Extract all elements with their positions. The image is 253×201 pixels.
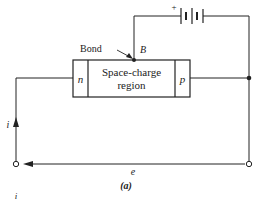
emf-arrow-icon xyxy=(23,161,33,167)
space-charge-label-line2: region xyxy=(117,79,146,91)
figure-caption: (a) xyxy=(120,180,132,192)
p-region-label: p xyxy=(179,73,186,85)
circuit-diagram: n Space-charge region p + Bond B i xyxy=(0,0,253,201)
battery-plus-label: + xyxy=(171,2,176,12)
right-terminal xyxy=(246,161,251,166)
left-terminal xyxy=(13,161,18,166)
current-label: i xyxy=(7,119,10,130)
bond-arrow-icon xyxy=(126,53,133,59)
emf-label: e xyxy=(131,166,136,177)
right-rail-wire xyxy=(207,16,249,162)
battery-icon xyxy=(178,8,207,24)
junction-dot xyxy=(247,76,252,81)
bond-point-label: B xyxy=(140,44,146,55)
n-region-label: n xyxy=(78,73,84,85)
n-lead-wire xyxy=(16,78,73,161)
space-charge-label-line1: Space-charge xyxy=(102,66,161,78)
current-arrow-icon xyxy=(13,117,19,127)
partial-current-label: i xyxy=(15,191,18,201)
bond-label: Bond xyxy=(80,43,102,54)
bond-point-dot xyxy=(132,58,136,62)
